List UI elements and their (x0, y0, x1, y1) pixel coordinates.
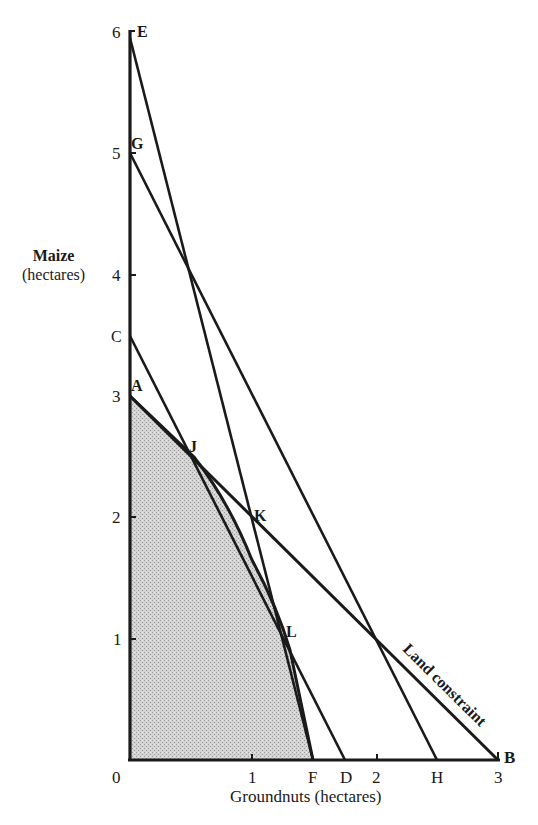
point-label-L: L (286, 623, 297, 640)
x-tick-label-0: 0 (112, 768, 121, 787)
point-label-C: C (111, 328, 122, 345)
point-label-E: E (137, 23, 148, 40)
x-tick-label-2: 2 (372, 768, 381, 787)
y-tick-label-2: 2 (112, 508, 121, 527)
y-axis-title-line2: (hectares) (22, 265, 85, 284)
y-tick-label-5: 5 (112, 144, 121, 163)
point-label-B: B (504, 748, 515, 767)
y-axis-title: Maize (hectares) (22, 246, 85, 284)
feasible-region (130, 396, 313, 760)
point-label-D: D (340, 768, 352, 787)
y-tick-label-6: 6 (112, 23, 121, 42)
x-tick-label-3: 3 (494, 768, 503, 787)
production-possibility-chart: 6 5 4 3 2 1 0 1 2 3 E G C A J K L F D H … (0, 0, 538, 825)
land-constraint-label: Land constraint (400, 640, 490, 730)
point-label-F: F (308, 768, 317, 787)
point-label-K: K (254, 507, 267, 524)
y-tick-label-4: 4 (112, 266, 121, 285)
y-tick-label-3: 3 (112, 387, 121, 406)
x-axis-title: Groundnuts (hectares) (230, 787, 382, 807)
point-label-A: A (131, 377, 143, 394)
point-label-G: G (131, 135, 144, 152)
point-label-J: J (189, 438, 197, 455)
point-label-H: H (431, 768, 443, 787)
y-tick-label-1: 1 (113, 630, 122, 649)
x-tick-label-1: 1 (248, 768, 257, 787)
y-axis-title-line1: Maize (22, 246, 85, 265)
